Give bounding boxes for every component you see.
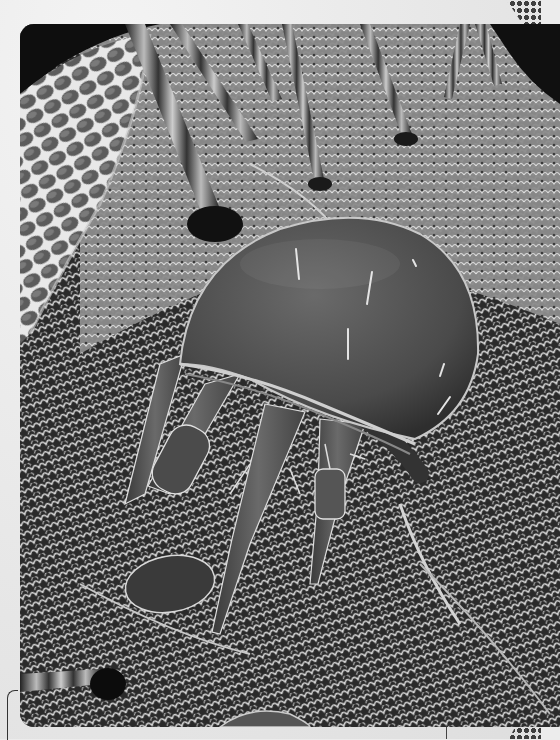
- sem-photograph: [20, 24, 560, 727]
- margin-bracket: [7, 690, 18, 740]
- margin-tick: [446, 725, 447, 739]
